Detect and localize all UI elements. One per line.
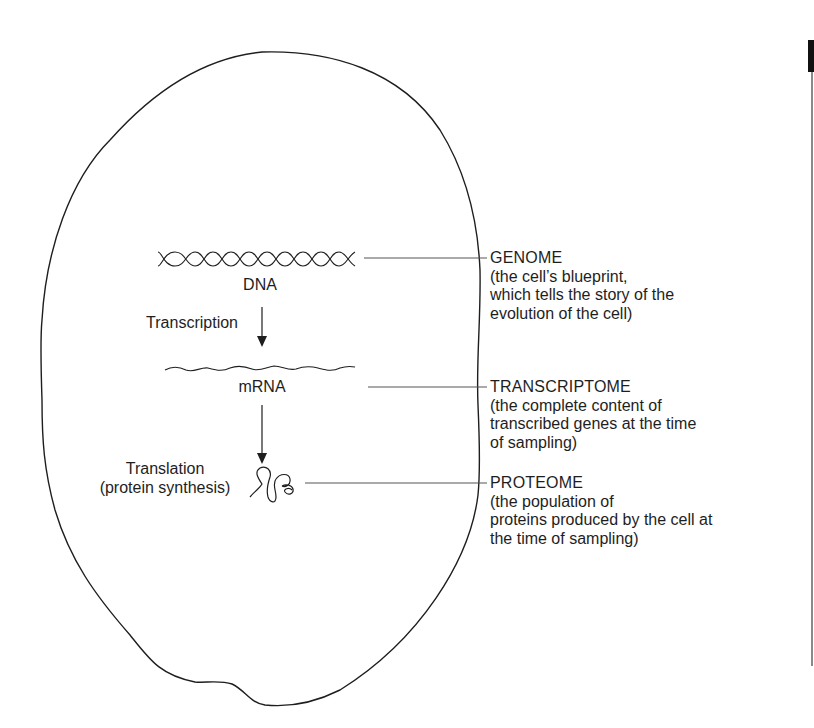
transcriptome-title: TRANSCRIPTOME <box>490 378 696 397</box>
arrow-down-icon <box>257 307 267 347</box>
transcriptome-annotation: TRANSCRIPTOME (the complete content of t… <box>490 378 696 452</box>
genome-description-line: which tells the story of the <box>490 286 674 305</box>
page-edge-line <box>811 72 813 666</box>
transcriptome-description-line: transcribed genes at the time <box>490 415 696 434</box>
arrow-down-icon <box>257 405 267 464</box>
transcriptome-description-line: of sampling) <box>490 434 696 453</box>
proteome-description-line: the time of sampling) <box>490 530 712 549</box>
genome-title: GENOME <box>490 249 674 268</box>
page-edge-marker <box>808 40 814 72</box>
genome-annotation: GENOME (the cell’s blueprint, which tell… <box>490 249 674 323</box>
transcriptome-description-line: (the complete content of <box>490 397 696 416</box>
diagram-canvas <box>0 0 814 728</box>
dna-label: DNA <box>243 276 277 294</box>
proteome-description-line: proteins produced by the cell at <box>490 511 712 530</box>
proteome-annotation: PROTEOME (the population of proteins pro… <box>490 474 712 548</box>
protein-fold-icon <box>250 467 293 502</box>
dna-helix-icon <box>158 252 355 266</box>
genome-description-line: evolution of the cell) <box>490 305 674 324</box>
mrna-label: mRNA <box>238 378 285 396</box>
translation-label: Translation <box>126 460 205 478</box>
transcription-label: Transcription <box>117 314 238 332</box>
proteome-description-line: (the population of <box>490 493 712 512</box>
proteome-title: PROTEOME <box>490 474 712 493</box>
genome-description-line: (the cell’s blueprint, <box>490 268 674 287</box>
protein-synthesis-label: (protein synthesis) <box>100 479 231 497</box>
mrna-strand-icon <box>165 366 355 371</box>
